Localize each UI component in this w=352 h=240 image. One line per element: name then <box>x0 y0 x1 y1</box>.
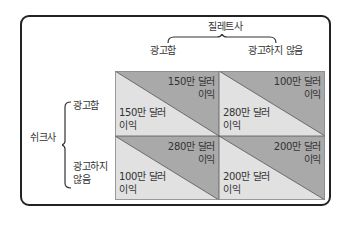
row-label-advertise: 광고함 <box>73 100 99 112</box>
row-label-not-advertise-line2: 않음 <box>73 174 90 186</box>
column-label-not-advertise: 광고하지 않음 <box>248 45 303 57</box>
column-brace-icon <box>167 34 277 44</box>
payoff-grid: 150만 달러 이익 150만 달러 이익 100만 달러 이익 280만 달러… <box>115 71 325 200</box>
column-label-advertise: 광고함 <box>150 45 176 57</box>
row-player-label: 쉬크사 <box>30 132 56 144</box>
row-label-not-advertise-line1: 광고하지 <box>73 161 108 173</box>
column-player-label: 질레트사 <box>208 21 243 33</box>
row-brace-icon <box>62 101 72 189</box>
grid-lines <box>115 71 325 200</box>
